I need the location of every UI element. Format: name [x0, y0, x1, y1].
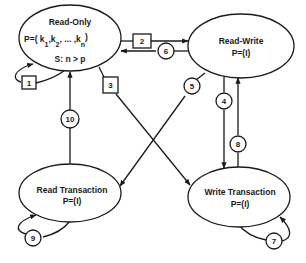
- transition-label-9[interactable]: 9: [25, 230, 41, 246]
- state-read-transaction[interactable]: Read Transaction P=(I): [19, 164, 121, 222]
- transition-label-2[interactable]: 2: [133, 34, 151, 48]
- transition-label-4[interactable]: 4: [216, 93, 232, 109]
- transition-label-10[interactable]: 10: [61, 110, 79, 128]
- state-read-write-p: P=(I): [232, 48, 251, 58]
- svg-text:6: 6: [164, 47, 169, 56]
- transition-label-1[interactable]: 1: [22, 76, 36, 89]
- transition-label-3[interactable]: 3: [103, 77, 118, 93]
- state-read-write[interactable]: Read-Write P=(I): [188, 14, 294, 78]
- state-read-only-title: Read-Only: [49, 17, 92, 27]
- svg-text:2: 2: [140, 37, 145, 46]
- svg-text:7: 7: [272, 237, 277, 246]
- state-read-transaction-title: Read Transaction: [37, 185, 108, 195]
- state-read-only[interactable]: Read-Only P=( k1,k2, ... ,kn) S: n > p: [19, 5, 121, 71]
- state-write-transaction-title: Write Transaction: [204, 187, 275, 197]
- transition-label-5[interactable]: 5: [184, 78, 200, 94]
- state-read-only-s: S: n > p: [55, 54, 86, 64]
- state-write-transaction-p: P=(I): [231, 199, 250, 209]
- state-write-transaction[interactable]: Write Transaction P=(I): [188, 167, 290, 227]
- svg-text:10: 10: [66, 115, 75, 124]
- svg-text:4: 4: [222, 97, 227, 106]
- svg-text:5: 5: [190, 82, 195, 91]
- svg-text:1: 1: [27, 79, 32, 88]
- state-read-write-title: Read-Write: [219, 36, 264, 46]
- svg-text:8: 8: [236, 140, 241, 149]
- svg-text:3: 3: [108, 81, 113, 90]
- state-read-transaction-p: P=(I): [63, 196, 82, 206]
- transition-label-6[interactable]: 6: [158, 43, 174, 59]
- transition-label-8[interactable]: 8: [230, 136, 246, 152]
- svg-text:9: 9: [31, 234, 36, 243]
- transition-label-7[interactable]: 7: [266, 233, 282, 249]
- state-transition-diagram: Read-Only P=( k1,k2, ... ,kn) S: n > p R…: [0, 0, 306, 263]
